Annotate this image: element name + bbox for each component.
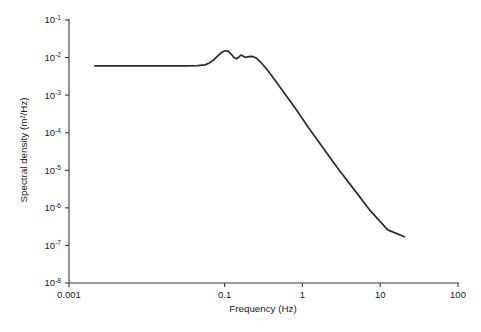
x-tick-label: 100 — [450, 289, 466, 300]
data-series-group — [95, 51, 405, 237]
y-tick-label: 10-4 — [45, 127, 62, 139]
x-tick-label: 0.001 — [57, 289, 81, 300]
y-tick-label: 10-1 — [45, 14, 62, 26]
y-tick-label: 10-5 — [45, 164, 62, 176]
y-tick-label: 10-2 — [45, 51, 62, 63]
x-tick-label: 1 — [300, 289, 305, 300]
y-tick-label: 10-3 — [45, 89, 62, 101]
y-tick-label: 10-6 — [45, 202, 62, 214]
chart-svg: 10-110-210-310-410-510-610-710-8 0.0010.… — [0, 0, 481, 332]
y-axis: 10-110-210-310-410-510-610-710-8 — [45, 14, 69, 289]
series-path — [95, 51, 405, 237]
spectral-density-chart: 10-110-210-310-410-510-610-710-8 0.0010.… — [0, 0, 481, 332]
y-tick-label: 10-7 — [45, 239, 62, 251]
x-tick-label: 0.1 — [218, 289, 231, 300]
y-axis-title: Spectral density (m²/Hz) — [18, 97, 29, 202]
x-tick-label: 10 — [375, 289, 386, 300]
y-tick-label: 10-8 — [45, 277, 62, 289]
x-axis: 0.0010.1110100 — [57, 283, 466, 300]
x-axis-title: Frequency (Hz) — [229, 303, 297, 314]
